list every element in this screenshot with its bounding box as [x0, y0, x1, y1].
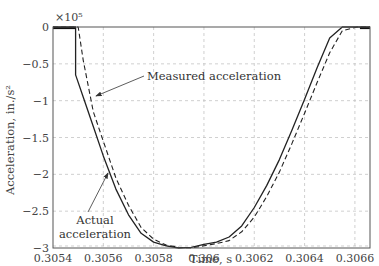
arrow-measured — [96, 76, 144, 96]
y-multiplier: ×10⁵ — [55, 11, 83, 24]
y-tick-label: −1 — [33, 95, 49, 108]
y-tick-label: −0.5 — [22, 58, 49, 71]
x-tick-label: 0.3064 — [285, 252, 324, 265]
y-tick-label: −2 — [33, 168, 49, 181]
annotation-actual-line2: acceleration — [59, 227, 132, 241]
x-tick-label: 0.3066 — [336, 252, 375, 265]
y-tick-label: −1.5 — [22, 132, 49, 145]
y-tick-label: 0 — [42, 21, 49, 34]
x-tick-label: 0.3062 — [235, 252, 274, 265]
annotation-actual-line1: Actual — [75, 213, 114, 227]
x-tick-label: 0.3058 — [134, 252, 173, 265]
annotation-measured: Measured acceleration — [147, 69, 282, 83]
acceleration-chart: 0.30540.30560.30580.3060.30620.30640.306… — [0, 0, 379, 266]
x-axis-label: Time, s — [190, 252, 232, 266]
y-tick-label: −3 — [33, 242, 49, 255]
y-axis-label: Acceleration, in./s² — [3, 85, 17, 196]
y-tick-label: −2.5 — [22, 205, 49, 218]
x-tick-label: 0.3056 — [84, 252, 123, 265]
arrow-actual — [88, 173, 108, 212]
